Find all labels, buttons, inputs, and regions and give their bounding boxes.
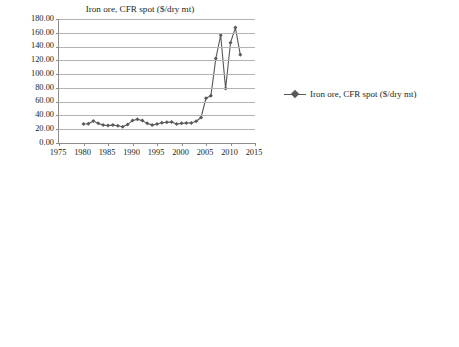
- data-point-marker: [121, 125, 125, 129]
- data-point-marker: [233, 26, 237, 30]
- data-point-marker: [219, 33, 223, 37]
- data-point-marker: [184, 121, 188, 125]
- data-point-marker: [101, 123, 105, 127]
- y-tickmark: [56, 19, 59, 20]
- y-axis-tick-label: 180.00: [31, 15, 54, 23]
- data-point-marker: [180, 121, 184, 125]
- x-tickmark: [133, 143, 134, 146]
- y-axis-tick-label: 80.00: [35, 84, 54, 92]
- chart-precious-metals: Precious metals ($/troy oz) (Platinum, g…: [0, 175, 459, 347]
- gridline: [59, 115, 255, 116]
- x-axis-tick-label: 2010: [221, 149, 238, 157]
- data-point-marker: [165, 120, 169, 124]
- y-axis-tick-label: 140.00: [31, 42, 54, 50]
- y-tickmark: [56, 102, 59, 103]
- data-point-marker: [229, 41, 233, 45]
- data-point-marker: [106, 123, 110, 127]
- legend-marker-icon: [284, 90, 306, 99]
- x-tickmark: [255, 143, 256, 146]
- data-point-marker: [204, 96, 208, 100]
- data-point-marker: [175, 122, 179, 126]
- chart-iron-ore: Iron ore, CFR spot ($/dry mt) 0.0020.004…: [0, 0, 459, 172]
- y-axis-tick-label: 20.00: [35, 125, 54, 133]
- x-axis-tick-label: 1980: [74, 149, 91, 157]
- data-point-marker: [82, 122, 86, 126]
- gridline: [59, 33, 255, 34]
- legend-label: Iron ore, CFR spot ($/dry mt): [310, 89, 417, 99]
- gridline: [59, 74, 255, 75]
- data-point-marker: [150, 123, 154, 127]
- y-tickmark: [56, 74, 59, 75]
- data-point-marker: [160, 121, 164, 125]
- data-point-marker: [96, 121, 100, 125]
- x-axis-tick-label: 2005: [197, 149, 214, 157]
- x-tickmark: [59, 143, 60, 146]
- plot-wrapper-iron-ore: 0.0020.0040.0060.0080.00100.00120.00140.…: [0, 14, 268, 166]
- y-tickmark: [56, 129, 59, 130]
- y-axis-tick-label: 120.00: [31, 56, 54, 64]
- y-axis-tick-label: 100.00: [31, 70, 54, 78]
- series-line-iron-ore: [59, 19, 255, 143]
- x-axis-tick-label: 2015: [246, 149, 263, 157]
- y-axis-tick-label: 40.00: [35, 111, 54, 119]
- x-axis-tick-label: 1995: [148, 149, 165, 157]
- y-axis-tick-label: 160.00: [31, 29, 54, 37]
- y-axis-tick-label: 0.00: [39, 139, 54, 147]
- gridline: [59, 88, 255, 89]
- y-tickmark: [56, 88, 59, 89]
- x-tickmark: [157, 143, 158, 146]
- data-point-marker: [209, 94, 213, 98]
- data-point-marker: [170, 120, 174, 124]
- gridline: [59, 60, 255, 61]
- data-point-marker: [155, 122, 159, 126]
- y-axis-tick-label: 60.00: [35, 97, 54, 105]
- x-tickmark: [231, 143, 232, 146]
- legend-iron-ore: Iron ore, CFR spot ($/dry mt): [284, 89, 417, 99]
- data-point-marker: [111, 123, 115, 127]
- x-tickmark: [84, 143, 85, 146]
- data-point-marker: [189, 121, 193, 125]
- x-axis-tick-label: 1990: [123, 149, 140, 157]
- x-tickmark: [206, 143, 207, 146]
- gridline: [59, 47, 255, 48]
- data-point-marker: [116, 124, 120, 128]
- gridline: [59, 102, 255, 103]
- y-tickmark: [56, 33, 59, 34]
- plot-area-iron-ore: [58, 19, 255, 144]
- y-tickmark: [56, 47, 59, 48]
- x-tickmark: [108, 143, 109, 146]
- gridline: [59, 129, 255, 130]
- x-axis-tick-label: 2000: [172, 149, 189, 157]
- y-tickmark: [56, 115, 59, 116]
- data-point-marker: [135, 117, 139, 121]
- x-axis-tick-label: 1975: [50, 149, 67, 157]
- x-tickmark: [182, 143, 183, 146]
- gridline: [59, 19, 255, 20]
- y-tickmark: [56, 60, 59, 61]
- data-point-marker: [238, 53, 242, 57]
- x-axis-tick-label: 1985: [99, 149, 116, 157]
